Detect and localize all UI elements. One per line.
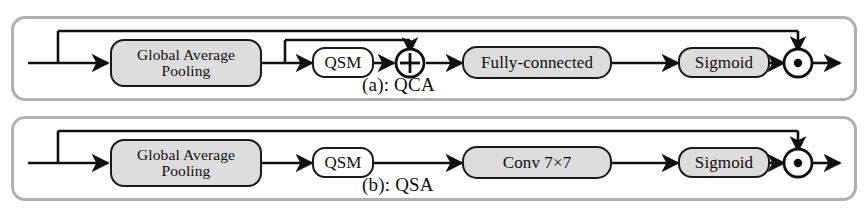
node-conv: Conv 7×7 xyxy=(462,146,612,179)
fully-connected-label: Fully-connected xyxy=(477,54,597,71)
conv-label: Conv 7×7 xyxy=(499,154,575,171)
qsm-label: QSM xyxy=(320,54,365,71)
caption-qsa: (b): QSA xyxy=(362,174,434,196)
gap-label-line2: Pooling xyxy=(162,62,211,79)
qsm-label-b: QSM xyxy=(320,154,365,171)
figure-root: Global Average Pooling QSM Fully-connect… xyxy=(0,0,868,214)
gap-label-line1: Global Average xyxy=(137,46,235,63)
sigmoid-label-qca: Sigmoid xyxy=(691,54,757,71)
node-sigmoid-qca: Sigmoid xyxy=(678,47,770,78)
gap-label-line2-b: Pooling xyxy=(162,162,211,179)
gap-label-line1-b: Global Average xyxy=(137,146,235,163)
sigmoid-label-qsa: Sigmoid xyxy=(691,154,757,171)
node-sigmoid-qsa: Sigmoid xyxy=(678,147,770,178)
node-global-average-pooling-qca: Global Average Pooling xyxy=(110,39,262,87)
caption-qca: (a): QCA xyxy=(362,74,435,96)
node-fully-connected: Fully-connected xyxy=(462,46,612,79)
node-global-average-pooling-qsa: Global Average Pooling xyxy=(110,139,262,187)
